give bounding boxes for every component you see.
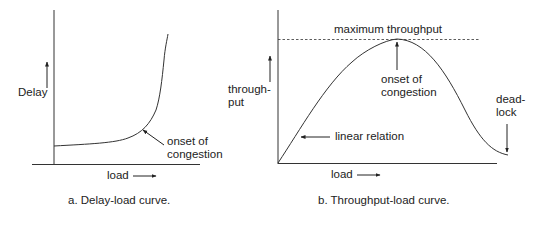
- load-axis-label: load: [331, 168, 353, 181]
- delay-curve: [54, 34, 168, 146]
- maximum-throughput-label: maximum throughput: [334, 23, 442, 36]
- onset-pointer-arrow-icon: [143, 130, 164, 145]
- throughput-line2: put: [228, 96, 271, 109]
- deadlock-line1: dead-: [496, 93, 525, 106]
- onset-of-congestion-label: onset of congestion: [167, 135, 223, 161]
- throughput-curve: [278, 39, 508, 163]
- throughput-axis-label: through- put: [228, 83, 271, 109]
- onset-of-congestion-label: onset of congestion: [381, 73, 437, 99]
- caption-a: a. Delay-load curve.: [68, 194, 170, 206]
- linear-relation-label: linear relation: [335, 130, 404, 143]
- delay-axis-label: Delay: [18, 86, 47, 99]
- onset-line2: congestion: [381, 86, 437, 99]
- onset-line1: onset of: [167, 135, 223, 148]
- deadlock-line2: lock: [496, 106, 525, 119]
- load-axis-label: load: [107, 169, 129, 182]
- onset-line2: congestion: [167, 148, 223, 161]
- throughput-line1: through-: [228, 83, 271, 96]
- caption-b: b. Throughput-load curve.: [318, 194, 449, 206]
- deadlock-label: dead- lock: [496, 93, 525, 119]
- onset-line1: onset of: [381, 73, 437, 86]
